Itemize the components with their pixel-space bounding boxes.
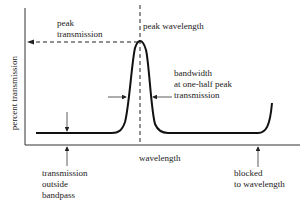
y-axis-label: percent transmission [9,43,19,143]
bandwidth-line-3: transmission [174,90,232,101]
outside-bandpass-line-1: transmission [42,168,88,179]
blocked-line-2: to wavelength [234,179,285,190]
bandwidth-label: bandwidth at one-half peak transmission [174,68,232,101]
peak-wavelength-label: peak wavelength [143,21,204,32]
outside-bandpass-label: transmission outside bandpass [42,168,88,201]
outside-bandpass-line-2: outside [42,179,88,190]
outside-bandpass-line-3: bandpass [42,190,88,201]
peak-transmission-line-1: peak [57,18,103,29]
peak-transmission-line-2: transmission [57,29,103,40]
blocked-line-1: blocked [234,168,285,179]
bandwidth-line-1: bandwidth [174,68,232,79]
x-axis-label: wavelength [139,153,180,164]
blocked-label: blocked to wavelength [234,168,285,190]
peak-transmission-arrow-icon [27,40,34,45]
bandwidth-line-2: at one-half peak [174,79,232,90]
peak-transmission-label: peak transmission [57,18,103,40]
transmission-curve [36,41,272,133]
